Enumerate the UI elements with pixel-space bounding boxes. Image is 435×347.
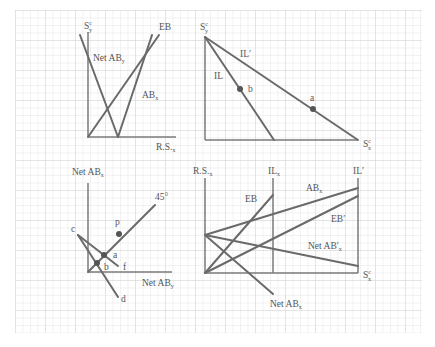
point-b bbox=[94, 260, 100, 266]
y-axis-label: Net ABx bbox=[72, 167, 104, 178]
eb-label: EB bbox=[159, 22, 171, 32]
economics-diagram: Scy EB Net ABy ABx R.S.x Scy IL′ IL b a … bbox=[0, 0, 435, 347]
il-label: IL bbox=[214, 71, 223, 81]
eb-label: EB bbox=[245, 194, 257, 204]
point-c-label: c bbox=[71, 224, 75, 234]
net-ab-y-label: Net ABy bbox=[93, 53, 125, 64]
il-prime-label: IL′ bbox=[240, 49, 251, 59]
net-ab-prime-label: Net AB′x bbox=[308, 241, 342, 252]
eb-prime-label: EB′ bbox=[331, 214, 345, 224]
il-prime-label: IL′ bbox=[353, 166, 364, 176]
point-p-label: p bbox=[115, 217, 120, 227]
x-axis-label: Net ABy bbox=[142, 278, 174, 289]
point-b-label: b bbox=[248, 84, 253, 94]
point-a bbox=[310, 106, 316, 112]
point-b-label: b bbox=[104, 262, 109, 272]
net-ab-x-label: Net ABx bbox=[270, 299, 302, 310]
angle-label: 45° bbox=[155, 192, 169, 202]
point-a bbox=[101, 252, 107, 258]
point-b bbox=[237, 86, 243, 92]
point-p bbox=[116, 231, 122, 237]
point-d-label: d bbox=[121, 294, 126, 304]
